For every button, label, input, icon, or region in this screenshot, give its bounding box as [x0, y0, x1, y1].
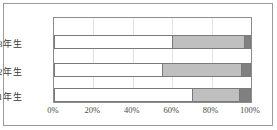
- category-label: 1年生: [0, 90, 40, 103]
- bar-group: [54, 18, 251, 102]
- bar-segment[interactable]: [192, 88, 239, 102]
- x-tick-label: 80%: [191, 105, 231, 115]
- x-tick-label: 0%: [33, 105, 73, 115]
- plot-area: [53, 17, 252, 103]
- bar-segment[interactable]: [241, 63, 251, 77]
- bar-segment[interactable]: [239, 88, 251, 102]
- bar-row[interactable]: [54, 63, 251, 77]
- bar-segment[interactable]: [54, 88, 192, 102]
- bar-segment[interactable]: [54, 35, 172, 49]
- bar-row[interactable]: [54, 88, 251, 102]
- x-tick-label: 40%: [112, 105, 152, 115]
- bar-segment[interactable]: [172, 35, 244, 49]
- chart-frame: 3年生2年生1年生 0%20%40%60%80%100%: [3, 3, 273, 126]
- bar-row[interactable]: [54, 35, 251, 49]
- x-tick-label: 20%: [72, 105, 112, 115]
- x-tick-label: 60%: [151, 105, 191, 115]
- bar-segment[interactable]: [54, 63, 162, 77]
- category-label: 3年生: [0, 37, 40, 50]
- x-tick-label: 100%: [230, 105, 270, 115]
- bar-segment[interactable]: [244, 35, 251, 49]
- bar-segment[interactable]: [162, 63, 241, 77]
- category-label: 2年生: [0, 65, 40, 78]
